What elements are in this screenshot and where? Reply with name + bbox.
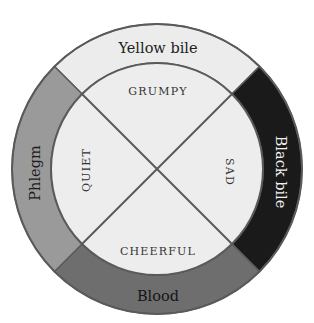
humours-diagram: Yellow bile Black bile Blood Phlegm GRUM… [0, 0, 314, 323]
label-quiet: QUIET [80, 148, 93, 192]
label-blood: Blood [137, 288, 179, 304]
label-sad: SAD [223, 158, 236, 186]
label-phlegm: Phlegm [27, 145, 43, 201]
label-cheerful: CHEERFUL [120, 245, 196, 258]
label-grumpy: GRUMPY [128, 85, 187, 98]
label-black-bile: Black bile [273, 136, 289, 209]
label-yellow-bile: Yellow bile [117, 40, 197, 56]
